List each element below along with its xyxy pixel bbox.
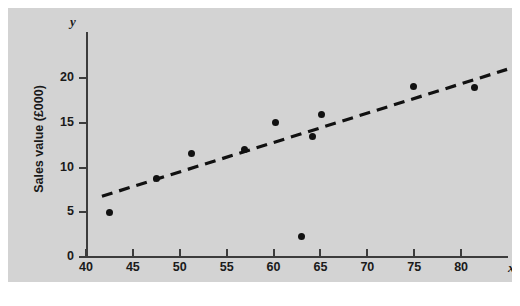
data-point <box>241 146 248 153</box>
data-point <box>153 175 160 182</box>
data-points-layer <box>8 8 512 282</box>
chart-plot-panel: y x Sales value (£000) Number of outlets… <box>8 8 512 282</box>
data-point <box>410 83 417 90</box>
figure-container: y x Sales value (£000) Number of outlets… <box>0 0 520 306</box>
data-point <box>309 133 316 140</box>
figure-caption <box>8 288 448 304</box>
data-point <box>318 111 325 118</box>
data-point <box>272 119 279 126</box>
data-point <box>106 209 113 216</box>
data-point <box>471 84 478 91</box>
data-point <box>298 233 305 240</box>
data-point <box>188 150 195 157</box>
